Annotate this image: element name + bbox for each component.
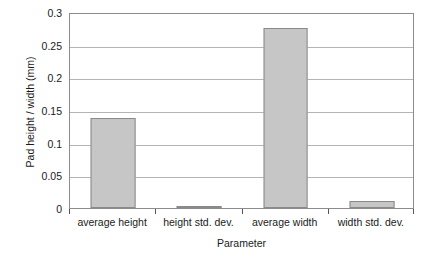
x-axis-tick-mark <box>242 209 243 214</box>
bar-slot <box>243 14 329 208</box>
x-axis-tick-mark <box>155 209 156 214</box>
bar[interactable] <box>177 206 222 209</box>
bar-slot <box>156 14 242 208</box>
y-axis-tick-labels: 00.050.10.150.20.250.3 <box>10 13 66 209</box>
y-axis-tick-label: 0.1 <box>47 138 62 149</box>
bar[interactable] <box>263 28 308 208</box>
x-axis-tick-label: width std. dev. <box>338 215 404 229</box>
bars-layer <box>70 14 413 208</box>
bar[interactable] <box>349 201 394 208</box>
x-axis-tick-mark <box>328 209 329 214</box>
x-axis-title: Parameter <box>69 236 414 250</box>
bar-chart: Pad height / width (mm) 00.050.10.150.20… <box>0 0 430 269</box>
x-axis-tick-mark <box>69 209 70 214</box>
x-axis-tick-label: average width <box>252 215 317 229</box>
x-axis-tick-label: average height <box>77 215 146 229</box>
x-axis-tick-label: height std. dev. <box>163 215 233 229</box>
bar-slot <box>70 14 156 208</box>
plot-area <box>69 13 414 209</box>
y-axis-tick-label: 0.2 <box>47 73 62 84</box>
bar-slot <box>329 14 415 208</box>
bar[interactable] <box>91 118 136 208</box>
y-axis-tick-label: 0.25 <box>42 40 62 51</box>
y-axis-tick-label: 0.05 <box>42 171 62 182</box>
y-axis-tick-label: 0 <box>56 204 62 215</box>
x-axis-tick-mark <box>413 209 414 214</box>
y-axis-tick-label: 0.3 <box>47 8 62 19</box>
x-axis-tick-marks <box>69 209 414 214</box>
x-axis-tick-labels: average heightheight std. dev.average wi… <box>69 215 414 233</box>
y-axis-tick-label: 0.15 <box>42 106 62 117</box>
